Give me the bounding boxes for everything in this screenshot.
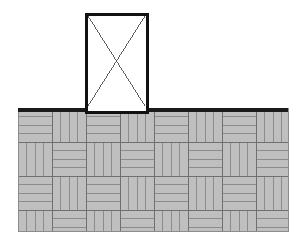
- figure-root: [0, 0, 302, 245]
- footing-body: [86, 14, 147, 112]
- basketweave-paving: [18, 108, 288, 231]
- foundation-paving-diagram: [0, 0, 302, 245]
